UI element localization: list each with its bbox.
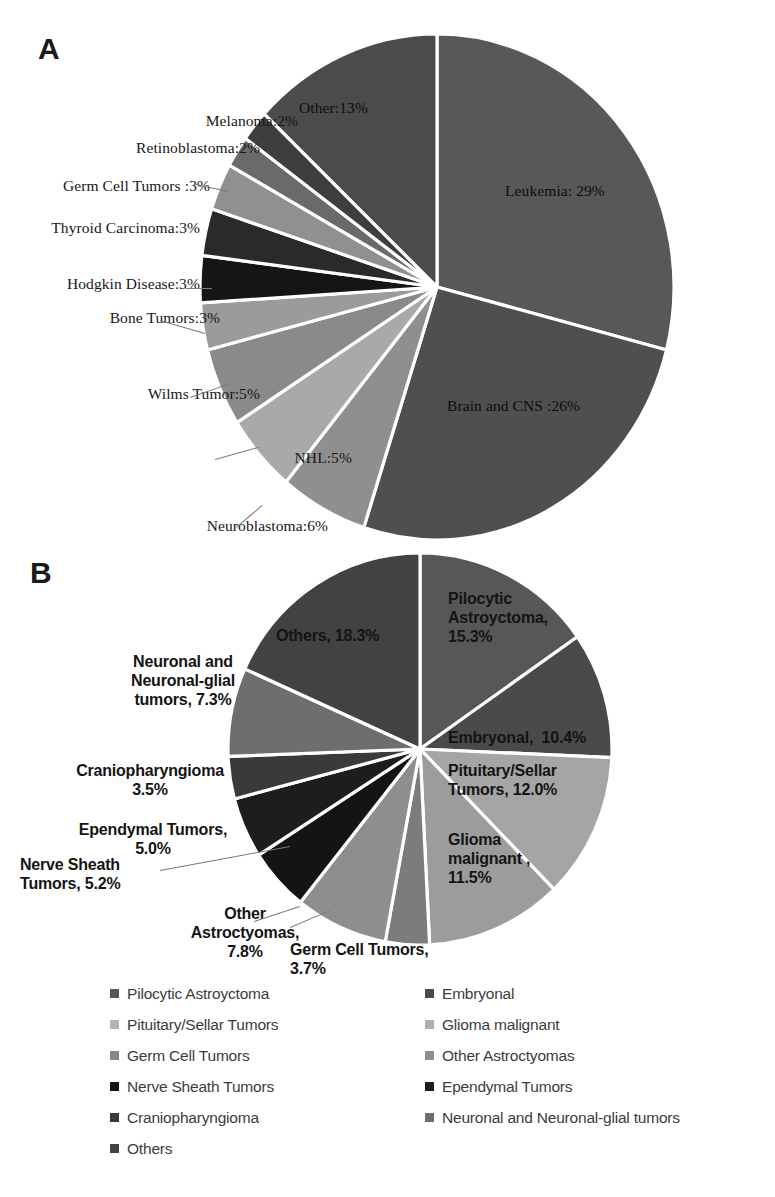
legend: Pilocytic AstroyctomaPituitary/Sellar Tu… bbox=[110, 978, 750, 1188]
figure-root: A Leukemia: 29%Brain and CNS :26%Neurobl… bbox=[0, 0, 775, 1197]
legend-item[interactable]: Other Astroctyomas bbox=[425, 1040, 755, 1071]
legend-item-label: Neuronal and Neuronal-glial tumors bbox=[442, 1109, 680, 1127]
legend-swatch-icon bbox=[110, 989, 119, 998]
legend-swatch-icon bbox=[425, 1051, 434, 1060]
legend-item[interactable]: Embryonal bbox=[425, 978, 755, 1009]
legend-item-label: Nerve Sheath Tumors bbox=[127, 1078, 274, 1096]
legend-item[interactable]: Pilocytic Astroyctoma bbox=[110, 978, 410, 1009]
pie-a-svg bbox=[0, 0, 775, 555]
legend-item[interactable]: Craniopharyngioma bbox=[110, 1102, 410, 1133]
legend-item[interactable]: Glioma malignant bbox=[425, 1009, 755, 1040]
legend-swatch-icon bbox=[110, 1144, 119, 1153]
legend-item-label: Pilocytic Astroyctoma bbox=[127, 985, 269, 1003]
legend-item-label: Pituitary/Sellar Tumors bbox=[127, 1016, 278, 1034]
legend-item[interactable]: Nerve Sheath Tumors bbox=[110, 1071, 410, 1102]
legend-item[interactable]: Pituitary/Sellar Tumors bbox=[110, 1009, 410, 1040]
legend-column-left: Pilocytic AstroyctomaPituitary/Sellar Tu… bbox=[110, 978, 410, 1164]
legend-swatch-icon bbox=[425, 1082, 434, 1091]
pie-b-svg bbox=[0, 550, 775, 970]
legend-swatch-icon bbox=[425, 1113, 434, 1122]
legend-swatch-icon bbox=[110, 1051, 119, 1060]
legend-item-label: Other Astroctyomas bbox=[442, 1047, 575, 1065]
legend-item-label: Ependymal Tumors bbox=[442, 1078, 572, 1096]
legend-item-label: Glioma malignant bbox=[442, 1016, 559, 1034]
legend-item[interactable]: Others bbox=[110, 1133, 410, 1164]
legend-swatch-icon bbox=[110, 1113, 119, 1122]
legend-item-label: Embryonal bbox=[442, 985, 514, 1003]
legend-swatch-icon bbox=[110, 1020, 119, 1029]
legend-column-right: EmbryonalGlioma malignantOther Astroctyo… bbox=[425, 978, 755, 1133]
label-leader-line bbox=[186, 288, 212, 289]
pie-chart-b bbox=[0, 550, 775, 970]
legend-item-label: Craniopharyngioma bbox=[127, 1109, 259, 1127]
legend-swatch-icon bbox=[110, 1082, 119, 1091]
legend-swatch-icon bbox=[425, 1020, 434, 1029]
legend-item[interactable]: Germ Cell Tumors bbox=[110, 1040, 410, 1071]
legend-item-label: Germ Cell Tumors bbox=[127, 1047, 250, 1065]
legend-item[interactable]: Ependymal Tumors bbox=[425, 1071, 755, 1102]
legend-item[interactable]: Neuronal and Neuronal-glial tumors bbox=[425, 1102, 755, 1133]
legend-swatch-icon bbox=[425, 989, 434, 998]
pie-chart-a: Leukemia: 29%Brain and CNS :26%Neuroblas… bbox=[0, 0, 775, 555]
legend-item-label: Others bbox=[127, 1140, 172, 1158]
